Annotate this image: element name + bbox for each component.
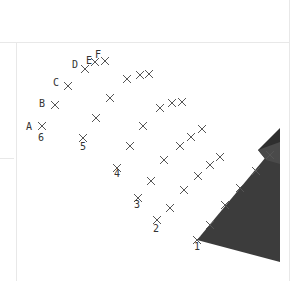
x-marker-icon	[106, 94, 114, 102]
diagram-canvas: ABCDEF654321	[0, 0, 298, 281]
x-marker-icon	[187, 133, 195, 141]
grid-labels: ABCDEF654321	[26, 49, 200, 252]
x-marker-icon	[64, 82, 72, 90]
x-marker-icon	[38, 122, 46, 130]
grid-label: B	[39, 98, 45, 109]
grid-label: 4	[114, 168, 120, 179]
grid-label: C	[53, 77, 59, 88]
x-marker-icon	[160, 156, 168, 164]
x-marker-icon	[216, 153, 224, 161]
grid-label: A	[26, 121, 32, 132]
x-marker-icon	[166, 204, 174, 212]
x-marker-icon	[194, 172, 202, 180]
grid-label: F	[95, 49, 101, 60]
grid-label: 5	[80, 141, 86, 152]
x-marker-icon	[176, 142, 184, 150]
x-marker-icon	[136, 71, 144, 79]
x-marker-icon	[198, 125, 206, 133]
x-marker-icon	[101, 57, 109, 65]
x-marker-icon	[81, 65, 89, 73]
x-marker-icon	[123, 75, 131, 83]
x-marker-icon	[139, 122, 147, 130]
grid-label: E	[86, 55, 92, 66]
x-marker-icon	[180, 186, 188, 194]
x-marker-icon	[206, 161, 214, 169]
x-marker-icon	[51, 101, 59, 109]
x-marker-icon	[145, 70, 153, 78]
x-marker-icon	[178, 98, 186, 106]
x-marker-icon	[92, 114, 100, 122]
grid-label: 3	[134, 199, 140, 210]
grid-label: D	[72, 59, 78, 70]
grid-label: 6	[38, 132, 44, 143]
grid-label: 1	[194, 241, 200, 252]
grid-label: 2	[153, 223, 159, 234]
x-marker-icon	[156, 104, 164, 112]
x-marker-icon	[126, 142, 134, 150]
x-marker-icon	[168, 99, 176, 107]
x-marker-icon	[147, 177, 155, 185]
